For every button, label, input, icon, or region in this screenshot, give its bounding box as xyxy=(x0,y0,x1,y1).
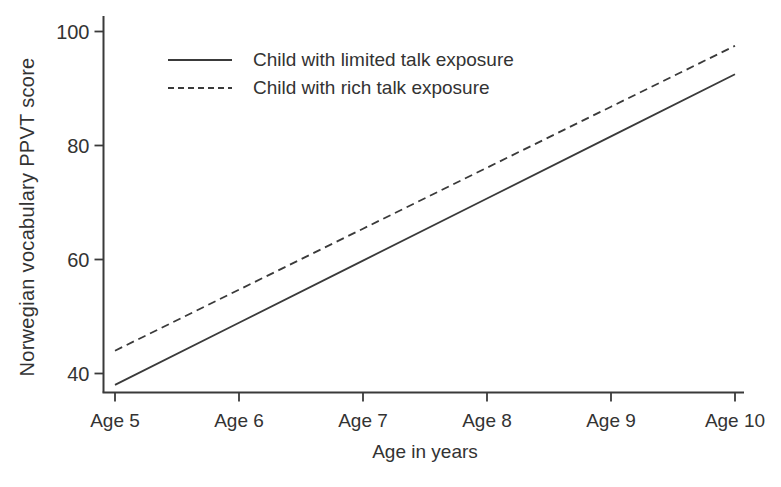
solid-line-sample-icon xyxy=(168,58,232,62)
x-tick-label: Age 9 xyxy=(586,410,636,431)
legend: Child with limited talk exposure Child w… xyxy=(168,46,514,102)
x-tick-label: Age 7 xyxy=(338,410,388,431)
y-tick-label: 40 xyxy=(67,363,89,385)
x-axis-title: Age in years xyxy=(372,441,478,463)
y-tick-label: 60 xyxy=(67,249,89,271)
legend-item-rich-talk: Child with rich talk exposure xyxy=(168,74,514,102)
x-tick-label: Age 10 xyxy=(705,410,765,431)
x-tick-label: Age 6 xyxy=(214,410,264,431)
legend-label-limited-talk: Child with limited talk exposure xyxy=(253,49,514,71)
series-line-limited-talk xyxy=(115,74,735,385)
x-tick-label: Age 5 xyxy=(90,410,140,431)
y-axis-title: Norwegian vocabulary PPVT score xyxy=(16,57,39,376)
chart-figure: 406080100Age 5Age 6Age 7Age 8Age 9Age 10… xyxy=(0,0,781,487)
x-tick-label: Age 8 xyxy=(462,410,512,431)
legend-label-rich-talk: Child with rich talk exposure xyxy=(253,77,490,99)
dashed-line-sample-icon xyxy=(168,86,232,90)
y-tick-label: 80 xyxy=(67,135,89,157)
y-tick-label: 100 xyxy=(56,21,89,43)
legend-item-limited-talk: Child with limited talk exposure xyxy=(168,46,514,74)
